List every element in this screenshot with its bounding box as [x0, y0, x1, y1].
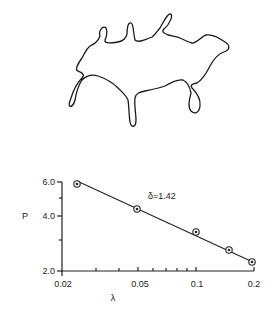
x-tick-label: 0.05 — [131, 279, 149, 289]
fractal-outline-shape — [69, 14, 229, 126]
y-tick-label: 2.0 — [42, 266, 55, 276]
fractal-dimension-annotation: δ=1.42 — [148, 191, 176, 201]
figure-canvas: 6.0 4.0 2.0 0.02 0.05 0.1 0.2 P λ δ=1.42 — [0, 0, 274, 318]
y-axis-label: P — [22, 211, 28, 221]
y-ticks — [57, 182, 62, 271]
x-axis-label: λ — [111, 293, 116, 303]
x-tick-label: 0.2 — [248, 279, 261, 289]
data-point-marker — [226, 247, 232, 253]
y-tick-label: 4.0 — [42, 211, 55, 221]
x-tick-label: 0.02 — [54, 279, 72, 289]
data-point-marker — [74, 181, 80, 187]
x-tick-label: 0.1 — [191, 279, 204, 289]
data-point-marker — [193, 229, 199, 235]
data-point-marker — [134, 206, 140, 212]
data-point-marker — [249, 259, 255, 265]
y-tick-label: 6.0 — [42, 177, 55, 187]
